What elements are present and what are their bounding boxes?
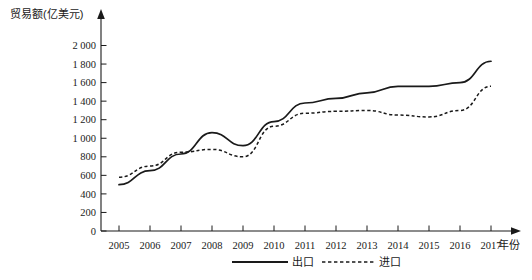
x-axis-tick-labels: 2005200620072008200920102011201220132014… (109, 240, 502, 251)
y-axis-tick-label: 1 000 (72, 133, 96, 144)
x-axis-ticks (119, 226, 491, 232)
y-axis: 02004006008001 0001 2001 4001 6001 8002 … (72, 9, 106, 237)
y-axis-tick-label: 800 (80, 151, 96, 162)
legend-label-exports: 出口 (292, 255, 314, 268)
y-axis-tick-label: 600 (80, 170, 96, 181)
x-axis-title: 年份 (498, 238, 520, 251)
series-group (119, 61, 491, 184)
x-axis-tick-label: 2011 (295, 240, 316, 251)
x-axis-tick-label: 2016 (450, 240, 471, 251)
y-axis-tick-label: 1 800 (72, 59, 96, 70)
y-axis-tick-labels: 02004006008001 0001 2001 4001 6001 8002 … (72, 40, 96, 237)
y-axis-arrow-icon (97, 9, 105, 19)
trade-volume-line-chart: 贸易额(亿美元) 02004006008001 0001 2001 4001 6… (0, 0, 532, 280)
y-axis-tick-label: 1 600 (72, 77, 96, 88)
y-axis-title: 贸易额(亿美元) (10, 8, 83, 20)
chart-legend: 出口 进口 (232, 255, 401, 268)
y-axis-tick-label: 1 400 (72, 96, 96, 107)
x-axis-tick-label: 2013 (357, 240, 378, 251)
legend-label-imports: 进口 (379, 256, 401, 268)
y-axis-tick-label: 400 (80, 189, 96, 200)
x-axis-tick-label: 2008 (202, 240, 223, 251)
x-axis-tick-label: 2010 (264, 240, 285, 251)
y-axis-tick-label: 2 000 (72, 40, 96, 51)
x-axis-arrow-icon (511, 227, 521, 235)
legend-item-imports: 进口 (322, 256, 401, 268)
y-axis-tick-label: 1 200 (72, 114, 96, 125)
series-line-exports (119, 61, 491, 184)
x-axis-tick-label: 2014 (388, 240, 410, 251)
legend-item-exports: 出口 (232, 255, 314, 268)
x-axis-tick-label: 2005 (109, 240, 130, 251)
x-axis-tick-label: 2006 (140, 240, 161, 251)
x-axis-tick-label: 2015 (419, 240, 440, 251)
y-axis-tick-label: 0 (91, 226, 96, 237)
x-axis-tick-label: 2012 (326, 240, 347, 251)
x-axis-tick-label: 2007 (171, 240, 192, 251)
chart-canvas: 贸易额(亿美元) 02004006008001 0001 2001 4001 6… (0, 0, 532, 280)
y-axis-ticks (101, 46, 107, 232)
y-axis-tick-label: 200 (80, 207, 96, 218)
x-axis: 2005200620072008200920102011201220132014… (101, 226, 521, 252)
x-axis-tick-label: 2009 (233, 240, 254, 251)
series-line-imports (119, 86, 491, 177)
